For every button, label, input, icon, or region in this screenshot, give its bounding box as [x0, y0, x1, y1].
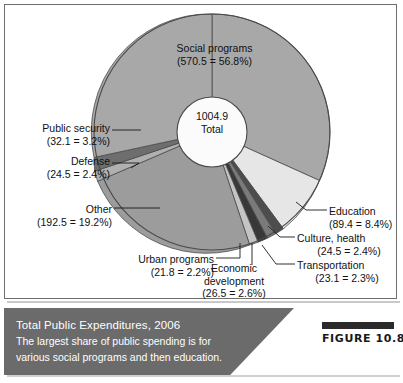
label-economic-development-name2: development — [193, 275, 275, 288]
label-defense-name: Defense — [20, 155, 110, 168]
label-other-name: Other — [22, 203, 112, 216]
caption-subtitle-line2: various social programs and then educati… — [16, 350, 281, 365]
figure-caption: Total Public Expenditures, 2006 The larg… — [4, 308, 397, 375]
pie-center-label: 1004.9 Total — [180, 110, 244, 135]
figure-badge-rule — [322, 322, 394, 329]
caption-title: Total Public Expenditures, 2006 — [16, 317, 281, 333]
label-social-programs: Social programs (570.5 = 56.8%) — [152, 42, 277, 67]
label-social-programs-detail: (570.5 = 56.8%) — [152, 55, 277, 68]
label-culture-health-detail: (24.5 = 2.4%) — [297, 245, 401, 258]
label-education: Education (89.4 = 8.4%) — [329, 205, 401, 230]
caption-text-block: Total Public Expenditures, 2006 The larg… — [16, 317, 281, 364]
label-education-name: Education — [329, 205, 401, 218]
label-other: Other (192.5 = 19.2%) — [22, 203, 112, 228]
caption-shadow — [7, 375, 400, 377]
label-culture-health: Culture, health (24.5 = 2.4%) — [297, 232, 401, 257]
label-public-security-name: Public security — [6, 122, 110, 135]
pie-center-value: 1004.9 — [180, 110, 244, 123]
label-transportation-detail: (23.1 = 2.3%) — [297, 272, 397, 285]
label-transportation: Transportation (23.1 = 2.3%) — [297, 259, 397, 284]
pie-center-total-text: Total — [180, 123, 244, 136]
label-public-security: Public security (32.1 = 3.2%) — [6, 122, 110, 147]
figure-page: Social programs (570.5 = 56.8%) 1004.9 T… — [0, 0, 403, 383]
label-culture-health-name: Culture, health — [297, 232, 401, 245]
label-economic-development-name: Economic — [193, 262, 275, 275]
label-social-programs-name: Social programs — [152, 42, 277, 55]
figure-badge-label: FIGURE 10.8 — [322, 332, 398, 345]
label-other-detail: (192.5 = 19.2%) — [22, 216, 112, 229]
label-defense: Defense (24.5 = 2.4%) — [20, 155, 110, 180]
label-economic-development: Economic development (26.5 = 2.6%) — [193, 262, 275, 300]
label-transportation-name: Transportation — [297, 259, 397, 272]
label-public-security-detail: (32.1 = 3.2%) — [6, 135, 110, 148]
label-economic-development-detail: (26.5 = 2.6%) — [193, 287, 275, 300]
label-education-detail: (89.4 = 8.4%) — [329, 218, 401, 231]
label-defense-detail: (24.5 = 2.4%) — [20, 168, 110, 181]
figure-badge: FIGURE 10.8 — [322, 322, 398, 345]
caption-subtitle-line1: The largest share of public spending is … — [16, 334, 281, 349]
